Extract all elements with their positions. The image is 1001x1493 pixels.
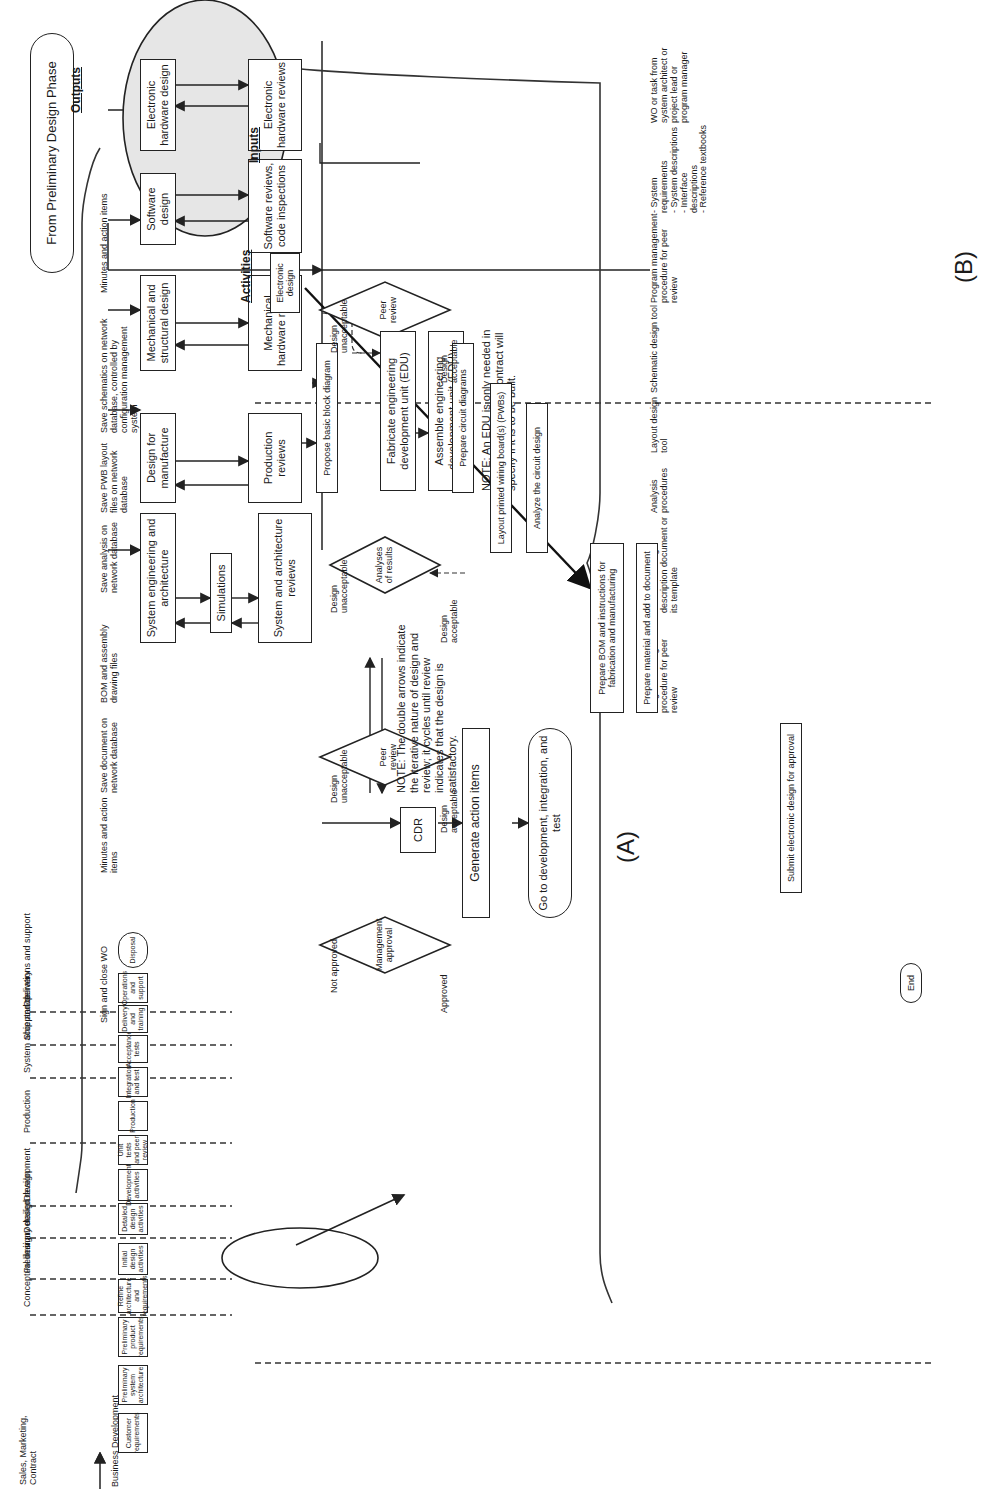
output-bom-files: BOM and assembly drawing files [100,613,120,703]
decision-peer-review-1: Peer review [378,290,399,330]
phase-label-operations: Operations and support [22,897,32,1007]
box-mechanical-design: Mechanical and structural design [140,275,176,371]
step-acceptance-tests: Acceptance tests [118,1035,148,1063]
branch-unacceptable-1: Design unacceptable [330,293,350,353]
phase-label-sales: Sales, Marketing, Contract [18,1395,39,1485]
input-analysis-procedures: Analysis procedures [650,453,670,513]
box-electronic-hw-design: Electronic hardware design [140,59,176,151]
column-header-outputs: Outputs [70,33,84,113]
input-system-docs: - System requirements - System descripti… [650,123,709,213]
box-cdr: CDR [400,807,436,853]
decision-management-approval: Management approval [374,919,395,971]
input-layout-tool: Layout design tool [650,393,670,453]
output-save-document: Save document on network database [100,713,120,793]
box-production-reviews: Production reviews [248,413,302,503]
column-header-activities: Activities [240,223,254,303]
label-a: (A) [612,803,640,863]
step-customer-requirements: Customer requirements [118,1413,148,1453]
output-minutes-2: Minutes and action items [100,793,120,873]
output-save-schematics: Save schematics on network database, con… [100,303,140,433]
box-system-architecture-reviews: System and architecture reviews [258,513,312,643]
terminal-go-to-development: Go to development, integration, and test [528,728,572,918]
branch-unacceptable-3: Design unacceptable [330,743,350,803]
step-refine-architecture: Refine architecture and requirements [118,1279,148,1313]
step-development: Development activities [118,1169,148,1201]
box-submit-design: Submit electronic design for approval [780,723,802,893]
step-prelim-architecture: Preliminary system architecture [118,1365,148,1405]
branch-acceptable-2: Design acceptable [440,583,460,643]
output-save-analysis: Save analysis on network database [100,513,120,593]
step-production: Production [118,1101,148,1131]
branch-not-approved: Not approved [330,933,340,993]
branch-approved: Approved [440,953,450,1013]
box-analyze-circuit: Analyze the circuit design [526,403,548,553]
step-detailed-design[interactable]: Detailed design activities [118,1203,148,1235]
branch-acceptable-3: Design acceptable [440,773,460,833]
decision-analyses: Analyses of results [374,542,395,588]
step-operations-support: Operations and support [118,973,148,1003]
label-b: (B) [950,223,978,283]
step-prelim-requirements: Preliminary product requirements [118,1317,148,1357]
box-generate-action-items: Generate action items [462,728,490,918]
branch-acceptable-1: Design acceptable [440,323,460,383]
box-design-for-manufacture: Design for manufacture [140,413,176,503]
start-electronic-design: Electronic design [270,253,300,313]
terminal-end: End [900,963,922,1003]
column-header-inputs: Inputs [248,103,262,163]
branch-unacceptable-2: Design unacceptable [330,553,350,613]
lifecycle-steps: Customer requirements Preliminary system… [118,1003,238,1453]
box-software-reviews: Software reviews, code inspections [248,159,302,253]
step-unit-tests: Unit tests and peer review [118,1135,148,1165]
output-save-pwb: Save PWB layout files on network databas… [100,433,130,513]
box-prepare-bom: Prepare BOM and instructions for fabrica… [590,543,624,713]
input-peer-review-procedure-1: Program management procedure for peer re… [650,213,680,303]
step-integration-test: Integration and test [118,1067,148,1097]
box-propose-block-diagram: Propose basic block diagram [316,343,338,493]
box-layout-pwb: Layout printed wiring board(s) (PWBs) [490,383,512,553]
input-schematic-tool: Schematic design tool [650,303,660,393]
output-sign-close-wo: Sign and close WO [100,943,110,1023]
decision-peer-review-2: Peer review [378,737,399,777]
step-disposal: Disposal [118,932,148,968]
box-system-engineering: System engineering and architecture [140,513,176,643]
box-prepare-material: Prepare material and add to document [636,543,658,713]
box-simulations: Simulations [210,553,232,633]
diagram-canvas: Sales, Marketing, Contract Conceptual de… [0,0,1001,1493]
from-preliminary-design-hexagon: From Preliminary Design Phase [30,33,74,273]
input-wo: WO or task from system architect or proj… [650,33,690,123]
note-double-arrows: NOTE: The double arrows indicate the ite… [395,623,458,793]
box-fabricate-edu: Fabricate engineering development unit (… [380,331,416,491]
step-initial-design: Initial design activities [118,1243,148,1275]
output-minutes-1: Minutes and action items [100,183,110,293]
step-delivery-training: Delivery and training [118,1005,148,1033]
box-software-design: Software design [140,173,176,245]
